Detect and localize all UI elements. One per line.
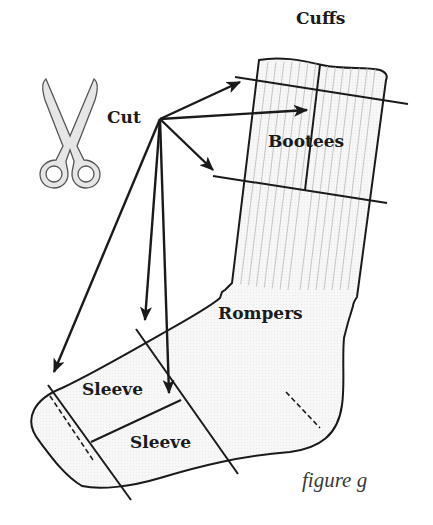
arrow-to-cuff-bottom (160, 119, 213, 170)
sock-cutting-diagram: Cuffs Cut Bootees Rompers Sleeve Sleeve … (0, 0, 433, 525)
cut-label: Cut (107, 109, 141, 126)
scissors-icon (40, 79, 100, 188)
cuffs-label: Cuffs (296, 10, 345, 27)
figure-caption: figure g (302, 468, 367, 493)
sleeve-lower-label: Sleeve (130, 434, 191, 451)
diagram-canvas (0, 0, 433, 525)
arrow-to-toe-line (54, 119, 160, 372)
bootees-label: Bootees (268, 133, 344, 150)
sleeve-upper-label: Sleeve (82, 381, 143, 398)
rompers-label: Rompers (218, 305, 303, 322)
arrow-to-cuff-top (160, 82, 240, 119)
